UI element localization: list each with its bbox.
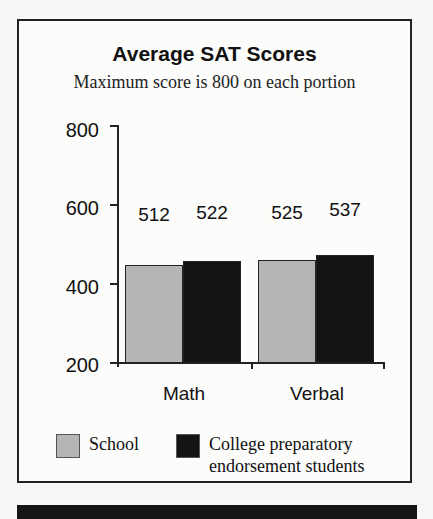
value-label: 525 xyxy=(257,202,317,224)
value-label: 522 xyxy=(182,202,242,224)
y-tick-mark xyxy=(110,283,118,285)
legend-label-prep-line1: College preparatory xyxy=(209,433,364,455)
bar-verbal-prep xyxy=(316,255,374,363)
chart-subtitle: Maximum score is 800 on each portion xyxy=(19,72,410,93)
y-tick-800: 800 xyxy=(49,119,99,142)
y-tick-mark xyxy=(110,204,118,206)
x-label-math: Math xyxy=(134,383,234,405)
y-tick-600: 600 xyxy=(49,197,99,220)
legend-label-school: School xyxy=(89,433,139,455)
value-label: 537 xyxy=(315,199,375,221)
value-label: 512 xyxy=(124,204,184,226)
bar-math-school xyxy=(125,265,183,363)
bar-math-prep xyxy=(183,261,241,363)
bar-verbal-school xyxy=(258,260,316,363)
y-tick-mark xyxy=(110,125,118,127)
y-tick-200: 200 xyxy=(49,354,99,377)
y-axis xyxy=(117,125,119,367)
legend-label-prep-line2: endorsement students xyxy=(209,455,364,477)
chart-frame: Average SAT Scores Maximum score is 800 … xyxy=(17,19,412,483)
x-label-verbal: Verbal xyxy=(267,383,367,405)
legend-swatch-prep xyxy=(176,434,200,458)
x-tick-mark xyxy=(251,362,253,369)
legend-label-prep: College preparatory endorsement students xyxy=(209,433,364,477)
y-tick-400: 400 xyxy=(49,276,99,299)
legend-swatch-school xyxy=(56,434,80,458)
chart-title: Average SAT Scores xyxy=(19,42,410,66)
x-tick-mark xyxy=(383,362,385,369)
bottom-dark-band xyxy=(17,505,417,519)
